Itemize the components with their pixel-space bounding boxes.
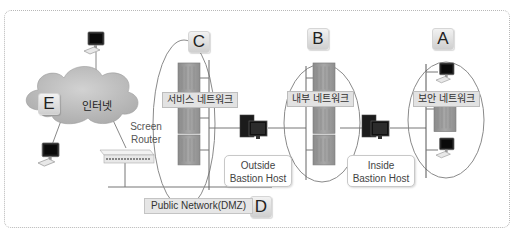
- screen-router-line1: Screen: [126, 120, 166, 133]
- inside-bastion-line2: Bastion Host: [348, 172, 414, 185]
- outside-bastion-host-label: Outside Bastion Host: [224, 155, 292, 187]
- outside-bastion-host-icon: [240, 115, 267, 139]
- internal-network-label: 내부 네트워크: [287, 91, 354, 107]
- screen-router-icon: [100, 150, 154, 163]
- zone-letter-d: D: [250, 196, 272, 218]
- internet-pc-bottom-icon: [38, 143, 59, 166]
- zone-letter-c: C: [188, 31, 210, 53]
- screen-router-line2: Router: [126, 133, 166, 146]
- zone-letter-e: E: [38, 93, 60, 115]
- service-network-label: 서비스 네트워크: [162, 92, 238, 108]
- secure-network-label: 보안 네트워크: [413, 91, 480, 107]
- outside-bastion-line1: Outside: [225, 159, 291, 172]
- inside-bastion-host-icon: [362, 115, 389, 139]
- inside-bastion-host-label: Inside Bastion Host: [347, 155, 415, 187]
- zone-letter-a: A: [432, 28, 454, 50]
- screen-router-label: Screen Router: [126, 120, 166, 146]
- internet-label: 인터넷: [82, 97, 112, 113]
- secure-pc-bottom-icon: [436, 138, 454, 158]
- outside-bastion-line2: Bastion Host: [225, 172, 291, 185]
- secure-pc-top-icon: [436, 63, 454, 83]
- zone-letter-b: B: [307, 28, 329, 50]
- inside-bastion-line1: Inside: [348, 159, 414, 172]
- internet-pc-top-icon: [84, 32, 104, 54]
- public-network-dmz-label: Public Network(DMZ): [144, 198, 253, 214]
